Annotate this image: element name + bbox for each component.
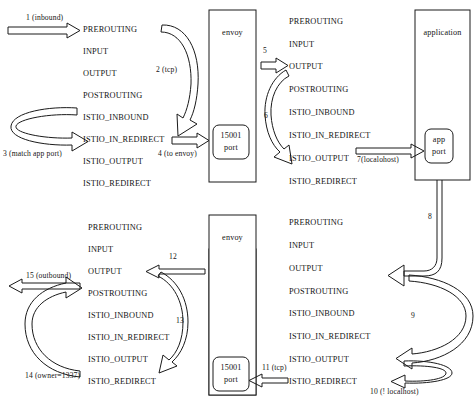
chain-label-postrouting: POSTROUTING [83,92,142,100]
arrow-step-8-head [388,265,404,286]
arrow-step-12 [146,265,205,278]
envoy-bottom-port-line1: 15001 [213,364,249,372]
chain-label-istio-inbound: ISTIO_INBOUND [289,109,355,117]
chain-label-postrouting: POSTROUTING [289,86,348,94]
chain-label-istio-inbound: ISTIO_INBOUND [83,114,149,122]
chain-label-istio-output: ISTIO_OUTPUT [289,155,349,163]
envoy-bottom-port-line2: port [213,376,249,384]
arrow-step-1 [8,23,80,38]
application-port-line2: port [425,148,453,156]
chain-label-input: INPUT [83,48,108,56]
step-label-5: 5 [263,47,267,55]
diagram-vector-layer [0,0,475,412]
step-label-13: 13 [176,317,184,325]
step-label-8: 8 [428,213,432,221]
chain-label-istio-in-redirect: ISTIO_IN_REDIRECT [88,334,169,342]
step-label-7: 7(localohost) [357,156,399,164]
chain-label-istio-redirect: ISTIO_REDIRECT [289,178,357,186]
arrow-step-14 [25,277,82,377]
step-label-14: 14 (owner=1337) [25,372,80,380]
arrow-step-6 [265,70,292,164]
chain-label-prerouting: PREROUTING [83,26,137,34]
step-label-15: 15 (outbound) [26,272,71,280]
chain-label-istio-in-redirect: ISTIO_IN_REDIRECT [289,132,370,140]
step-label-6: 6 [264,112,268,120]
step-label-2: 2 (tcp) [156,66,177,74]
chain-label-istio-redirect: ISTIO_REDIRECT [88,378,156,386]
chain-label-istio-in-redirect: ISTIO_IN_REDIRECT [83,136,164,144]
step-label-11: 11 (tcp) [262,364,287,372]
step-label-9: 9 [411,312,415,320]
envoy-top-port-line1: 15001 [213,132,249,140]
chain-label-output: OUTPUT [289,265,323,273]
line-step-8 [404,180,442,276]
application-label: application [415,29,470,37]
step-label-1: 1 (inbound) [26,14,63,22]
application-port-line1: app [425,136,453,144]
chain-label-istio-in-redirect: ISTIO_IN_REDIRECT [289,333,370,341]
chain-label-istio-redirect: ISTIO_REDIRECT [83,180,151,188]
chain-label-input: INPUT [289,41,314,49]
chain-label-istio-inbound: ISTIO_INBOUND [88,312,154,320]
diagram-canvas: PREROUTING INPUT OUTPUT POSTROUTING ISTI… [0,0,475,412]
chain-label-prerouting: PREROUTING [289,18,343,26]
chain-label-istio-redirect: ISTIO_REDIRECT [289,378,357,386]
chain-label-istio-inbound: ISTIO_INBOUND [289,310,355,318]
chain-label-istio-output: ISTIO_OUTPUT [88,356,148,364]
chain-label-input: INPUT [289,242,314,250]
arrow-step-9 [396,275,473,369]
step-label-10: 10 (! localhost) [370,388,419,396]
step-label-3: 3 (match app port) [3,150,62,158]
chain-label-postrouting: POSTROUTING [289,288,348,296]
envoy-top-port-line2: port [213,144,249,152]
step-label-12: 12 [169,253,177,261]
chain-label-postrouting: POSTROUTING [88,290,147,298]
arrow-step-10 [391,361,452,388]
step-label-4: 4 (to envoy) [158,150,197,158]
chain-label-prerouting: PREROUTING [88,224,142,232]
arrow-step-3 [11,108,88,151]
chain-label-output: OUTPUT [88,268,122,276]
envoy-bottom-label: envoy [209,234,256,242]
chain-label-istio-output: ISTIO_OUTPUT [289,356,349,364]
envoy-top-label: envoy [209,29,256,37]
chain-label-istio-output: ISTIO_OUTPUT [83,158,143,166]
chain-label-output: OUTPUT [83,70,117,78]
chain-label-prerouting: PREROUTING [289,219,343,227]
chain-label-output: OUTPUT [289,63,323,71]
arrow-step-2 [161,25,198,136]
chain-label-input: INPUT [88,246,113,254]
